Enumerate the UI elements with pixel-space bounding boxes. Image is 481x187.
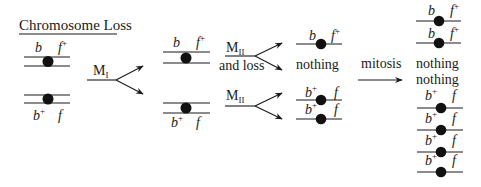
and-loss-caption: and loss [219, 58, 265, 73]
allele-label-b-plus: b+ [425, 109, 437, 126]
allele-label-b: b [35, 40, 42, 55]
allele-label-f: f [334, 85, 340, 100]
diagram-title: Chromosome Loss [19, 17, 132, 34]
allele-label-f-plus: f+ [58, 38, 67, 55]
stage3-chromatid-b-fplus: b f+ [416, 24, 461, 48]
allele-label-b-plus: b+ [425, 151, 437, 168]
allele-label-b-plus: b+ [305, 100, 317, 117]
stage3-chromatid-bplus-f: b+ f [417, 86, 463, 113]
centromere-icon [181, 103, 192, 114]
stage2-chromatid-b-fplus: b f+ [296, 26, 342, 49]
arrow-up-icon [255, 43, 282, 56]
centromere-icon [316, 95, 327, 106]
allele-label-f: f [452, 153, 458, 168]
stage0-top-chromosome: b f+ [24, 38, 70, 67]
centromere-icon [436, 147, 447, 158]
allele-label-b-plus: b+ [305, 83, 317, 100]
nothing-label: nothing [296, 57, 339, 72]
stage3-column: b f+ b f+ nothing nothing b+ f b+ f b+ f [416, 1, 463, 177]
meiosis2-loss-arrow: MII and loss [219, 40, 282, 73]
allele-label-f: f [452, 133, 458, 148]
centromere-icon [434, 16, 445, 27]
nothing-label: nothing [416, 56, 459, 71]
arrow-up-icon [116, 66, 143, 80]
meiosis2-arrow: MII [225, 88, 282, 119]
centromere-icon [316, 39, 327, 50]
allele-label-b: b [428, 3, 435, 18]
allele-label-f-plus: f+ [450, 1, 459, 18]
centromere-icon [43, 56, 54, 67]
allele-label-f-plus: f+ [196, 33, 205, 50]
nothing-label: nothing [416, 72, 459, 87]
stage3-chromatid-b-fplus: b f+ [416, 1, 461, 26]
mitosis-label: mitosis [361, 56, 401, 71]
meiosis1-arrow: MI [87, 63, 143, 94]
allele-label-b-plus: b+ [171, 113, 183, 130]
arrow-down-icon [116, 80, 143, 94]
allele-label-b-plus: b+ [425, 131, 437, 148]
centromere-icon [434, 38, 445, 49]
centromere-icon [436, 167, 447, 178]
allele-label-b-plus: b+ [33, 106, 45, 123]
centromere-icon [436, 125, 447, 136]
centromere-icon [436, 103, 447, 114]
stage2-column: b f+ nothing b+ f b+ f [296, 26, 342, 124]
allele-label-f: f [58, 108, 64, 123]
meiosis2-label: MII [226, 88, 244, 105]
stage1-bottom-chromosome: b+ f [163, 103, 210, 131]
chromosome-loss-diagram: Chromosome Loss b f+ b+ f MI b f+ b+ f [0, 0, 481, 187]
title-text: Chromosome Loss [19, 17, 132, 33]
centromere-icon [316, 114, 327, 125]
arrow-up-icon [255, 93, 282, 106]
allele-label-f: f [196, 115, 202, 130]
allele-label-f-plus: f+ [331, 26, 340, 43]
allele-label-b: b [309, 28, 316, 43]
stage1-top-chromosome: b f+ [163, 33, 210, 64]
meiosis2-loss-label: MII [226, 40, 244, 57]
allele-label-f-plus: f+ [450, 24, 459, 41]
meiosis1-label: MI [93, 63, 108, 80]
allele-label-b: b [428, 26, 435, 41]
allele-label-f: f [452, 111, 458, 126]
arrow-down-icon [255, 106, 282, 119]
stage0-bottom-chromosome: b+ f [24, 94, 70, 124]
allele-label-b-plus: b+ [425, 86, 437, 103]
mitosis-arrow: mitosis [358, 56, 402, 80]
centromere-icon [181, 53, 192, 64]
centromere-icon [43, 94, 54, 105]
allele-label-f: f [334, 102, 340, 117]
allele-label-f: f [452, 88, 458, 103]
allele-label-b: b [173, 35, 180, 50]
